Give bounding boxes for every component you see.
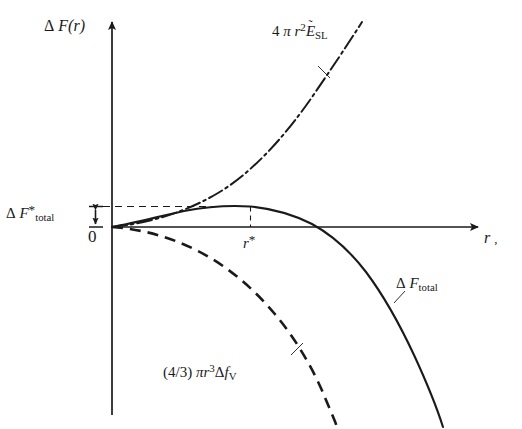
curve-surface-energy — [112, 22, 362, 227]
x-axis-label: r , — [484, 230, 497, 246]
critical-radius-label: r* — [243, 233, 255, 251]
nucleation-free-energy-figure: Δ F(r) r , 0 Δ F*total r* 4 π r2E˜SL (4/… — [0, 0, 522, 429]
barrier-height-label: Δ F*total — [6, 203, 54, 223]
volume-energy-term-label: (4/3) πr3ΔfV — [163, 363, 236, 382]
curves-group — [112, 22, 443, 427]
y-axis-label: Δ F(r) — [44, 18, 85, 34]
barrier-arrow-group — [89, 207, 103, 228]
origin-label: 0 — [88, 228, 97, 245]
plot-canvas — [0, 0, 522, 429]
curve-total-free-energy — [112, 206, 443, 427]
total-free-energy-label: Δ Ftotal — [396, 276, 438, 293]
surface-energy-term-label: 4 π r2E˜SL — [272, 22, 328, 41]
curve-volume-energy — [112, 227, 337, 427]
leader-lines-group — [291, 66, 405, 355]
axes-group — [112, 22, 478, 415]
